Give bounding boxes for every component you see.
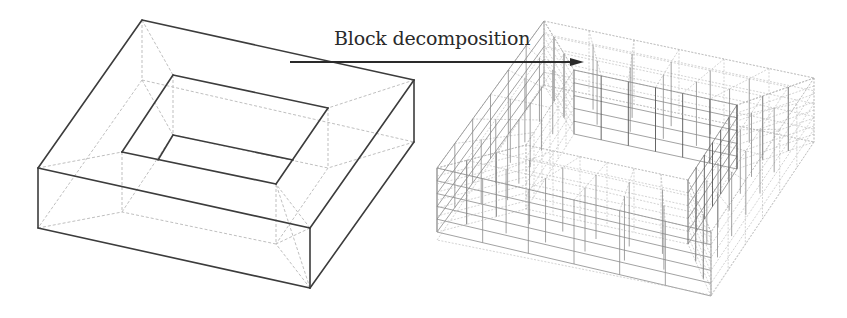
model-edge <box>310 80 414 228</box>
hidden-edge <box>142 20 173 75</box>
mesh-edge <box>544 72 814 129</box>
arrow-head-icon <box>570 58 584 66</box>
mesh-edge <box>544 85 814 142</box>
model-edge <box>122 75 173 152</box>
inner-floor-edge <box>158 135 173 160</box>
mesh-edge <box>574 163 607 201</box>
model-edge <box>173 75 328 108</box>
corner-diagonal <box>737 118 814 145</box>
mesh-edge <box>473 119 542 120</box>
hidden-edge <box>328 142 414 168</box>
mesh-edge <box>589 31 601 76</box>
mesh-edge <box>455 133 534 144</box>
ring-solid-model <box>38 20 414 288</box>
mesh-edge <box>656 50 680 88</box>
corner-diagonal <box>688 228 711 280</box>
corner-diagonal <box>737 142 814 169</box>
corner-diagonal <box>544 45 574 94</box>
mesh-edge <box>710 69 769 100</box>
model-edge <box>38 228 310 288</box>
hidden-edge <box>276 168 328 244</box>
mesh-edge <box>628 40 634 82</box>
hidden-edge <box>142 80 414 142</box>
model-edge <box>122 152 276 184</box>
corner-diagonal <box>737 134 814 161</box>
corner-diagonal <box>737 110 814 137</box>
corner-diagonal <box>544 29 574 78</box>
model-edge <box>276 108 328 184</box>
corner-diagonal <box>544 69 574 118</box>
model-edge <box>38 168 310 228</box>
hidden-edge <box>328 80 414 108</box>
mesh-edge <box>711 142 814 295</box>
model-edge <box>310 142 414 288</box>
mesh-edge <box>661 174 665 221</box>
hidden-edge <box>38 152 122 168</box>
inner-floor-edge <box>173 135 293 160</box>
block-decomposition-figure: Block decomposition <box>0 0 847 318</box>
hidden-edge <box>122 212 276 244</box>
corner-diagonal <box>544 77 574 126</box>
corner-diagonal <box>737 86 814 113</box>
hidden-edge <box>38 212 122 228</box>
hidden-edge <box>142 80 173 135</box>
annotation-label: Block decomposition <box>334 27 530 49</box>
